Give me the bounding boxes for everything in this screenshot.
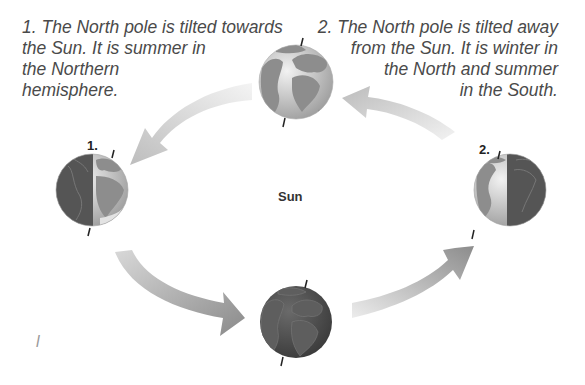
north-pole-axis: [112, 150, 114, 158]
south-pole-axis: [88, 228, 90, 236]
globe-bottom: [260, 280, 332, 366]
globe-position-1: [56, 150, 128, 236]
south-pole-axis: [283, 118, 285, 127]
stray-mark: l: [36, 333, 40, 351]
arrow-bottom-to-right: [352, 246, 474, 318]
south-pole-axis: [472, 230, 474, 239]
north-pole-axis: [301, 38, 303, 46]
arrow-top-to-left: [130, 83, 252, 165]
globe-position-2: [472, 150, 549, 239]
south-pole-axis: [281, 357, 283, 366]
sun-label: Sun: [278, 189, 303, 204]
marker-position-1: 1.: [87, 138, 98, 153]
marker-position-2: 2.: [479, 142, 490, 157]
arrow-right-to-top: [342, 86, 455, 140]
arrow-left-to-bottom: [115, 250, 245, 336]
north-pole-axis: [305, 280, 307, 288]
globe-top: [259, 38, 333, 127]
